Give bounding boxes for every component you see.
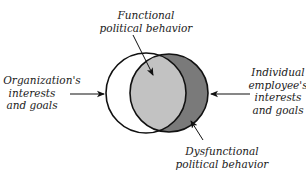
dysfunctional-behavior-label: Dysfunctional political behavior (166, 145, 278, 170)
organization-label-line3: and goals (0, 99, 84, 112)
dysfunctional-label-line1: Dysfunctional (166, 145, 278, 158)
dysfunctional-label-line2: political behavior (166, 158, 278, 171)
organization-label-line1: Organization's (0, 74, 84, 87)
functional-behavior-label: Functional political behavior (90, 9, 202, 34)
individual-label-line3: interests (248, 91, 306, 104)
individual-interests-label: Individual employee's interests and goal… (248, 66, 306, 116)
functional-label-line1: Functional (90, 9, 202, 22)
organization-label-line2: interests (0, 87, 84, 100)
dysfunctional-arrow (191, 121, 203, 140)
individual-label-line2: employee's (248, 79, 306, 92)
individual-label-line1: Individual (248, 66, 306, 79)
organization-interests-label: Organization's interests and goals (0, 74, 84, 112)
individual-label-line4: and goals (248, 104, 306, 117)
functional-label-line2: political behavior (90, 22, 202, 35)
